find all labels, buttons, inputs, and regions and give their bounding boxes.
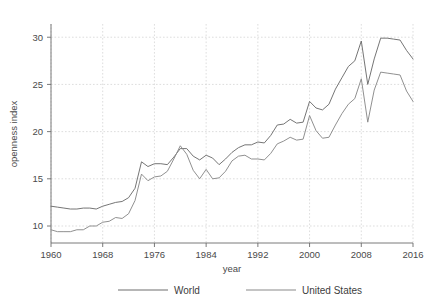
y-axis-ticks: 1015202530 <box>32 32 51 232</box>
gridlines <box>51 24 413 243</box>
x-axis-ticks: 19601968197619841992200020082016 <box>40 243 423 260</box>
chart-container: 1015202530 19601968197619841992200020082… <box>0 0 432 307</box>
x-tick-label: 1992 <box>247 249 268 260</box>
y-tick-label: 30 <box>32 32 43 43</box>
openness-index-line-chart: 1015202530 19601968197619841992200020082… <box>0 0 432 307</box>
x-axis-title: year <box>223 263 241 274</box>
x-tick-label: 1968 <box>92 249 113 260</box>
y-tick-label: 15 <box>32 173 43 184</box>
x-tick-label: 2008 <box>351 249 372 260</box>
y-tick-label: 20 <box>32 126 43 137</box>
legend: WorldUnited States <box>118 285 362 296</box>
x-tick-label: 1976 <box>144 249 165 260</box>
y-tick-label: 10 <box>32 220 43 231</box>
y-axis-title: openness index <box>8 100 19 167</box>
x-tick-label: 2016 <box>402 249 423 260</box>
series-line-world <box>51 38 413 209</box>
x-tick-label: 2000 <box>299 249 320 260</box>
data-series <box>51 38 413 232</box>
y-tick-label: 25 <box>32 79 43 90</box>
plot-frame <box>51 24 413 243</box>
x-tick-label: 1984 <box>196 249 217 260</box>
x-tick-label: 1960 <box>40 249 61 260</box>
legend-label-world: World <box>174 285 200 296</box>
legend-label-united-states: United States <box>302 285 362 296</box>
